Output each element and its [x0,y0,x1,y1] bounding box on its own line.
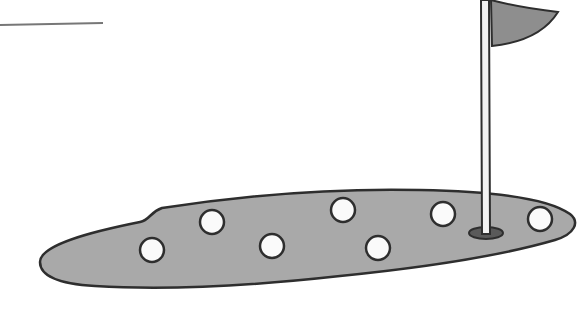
golf-ball [260,234,284,258]
flag [491,0,558,46]
golf-ball [331,198,355,222]
golf-green-illustration [0,0,585,309]
horizon-line [0,23,103,25]
golf-ball [140,238,164,262]
golf-ball [366,236,390,260]
golf-ball [431,202,455,226]
flag-pole [481,0,490,234]
golf-ball [200,210,224,234]
golf-ball [528,207,552,231]
